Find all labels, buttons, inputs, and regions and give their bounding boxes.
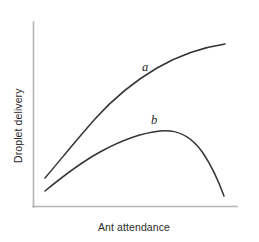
curve-label-b: b: [151, 113, 157, 127]
curve-b-path: [45, 131, 224, 196]
chart-plot-area: a b Droplet delivery Ant attendance: [0, 0, 259, 242]
y-axis-title: Droplet delivery: [12, 88, 24, 163]
curve-a-path: [45, 44, 225, 178]
chart-figure: a b Droplet delivery Ant attendance: [0, 0, 259, 242]
x-axis-title: Ant attendance: [98, 221, 170, 233]
curve-label-a: a: [142, 60, 148, 74]
